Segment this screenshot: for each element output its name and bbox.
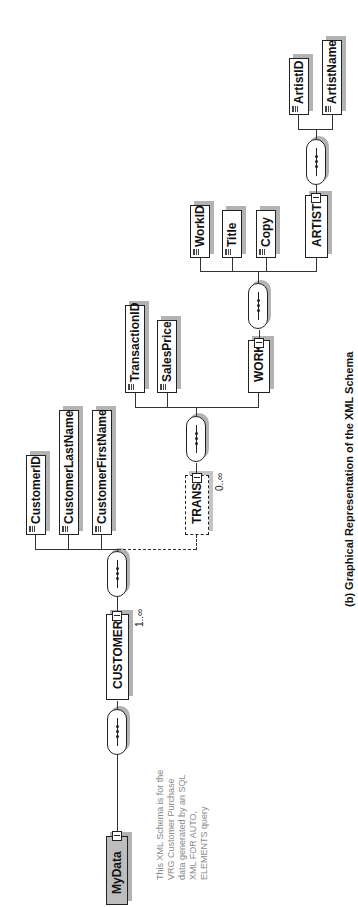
connector-line bbox=[68, 535, 69, 550]
leaf-element-copy[interactable]: Copy bbox=[256, 210, 276, 258]
sequence-compositor-icon[interactable] bbox=[306, 139, 326, 185]
simple-content-icon bbox=[29, 526, 36, 532]
leaf-element-customerfirstname[interactable]: CustomerFirstName bbox=[92, 410, 112, 535]
connector-line bbox=[117, 701, 118, 709]
connector-line bbox=[316, 130, 317, 139]
leaf-element-title[interactable]: Title bbox=[222, 210, 242, 258]
connector-line bbox=[258, 272, 259, 283]
simple-content-icon bbox=[225, 249, 232, 255]
root-element-label: MyData bbox=[110, 851, 124, 894]
connector-line bbox=[316, 258, 317, 272]
leaf-element-salesprice[interactable]: SalesPrice bbox=[157, 320, 177, 393]
expand-toggle-icon[interactable] bbox=[311, 193, 321, 203]
schema-annotation: This XML Schema is for the VRG Customer … bbox=[155, 750, 210, 880]
leaf-element-customerid[interactable]: CustomerID bbox=[26, 455, 46, 535]
element-trans-label: TRANS bbox=[190, 483, 204, 524]
connector-bus bbox=[200, 271, 317, 272]
root-element-mydata[interactable]: MyData bbox=[106, 836, 128, 905]
cardinality-label: 0..∞ bbox=[214, 473, 225, 491]
connector-bus bbox=[35, 549, 118, 550]
figure-caption: (b) Graphical Representation of the XML … bbox=[343, 352, 355, 607]
connector-line bbox=[35, 535, 36, 550]
sequence-compositor-icon[interactable] bbox=[107, 551, 127, 597]
connector-line bbox=[196, 408, 197, 416]
connector-line bbox=[258, 393, 259, 408]
simple-content-icon bbox=[325, 106, 332, 112]
sequence-compositor-icon[interactable] bbox=[107, 709, 127, 755]
element-artist[interactable]: ARTIST bbox=[305, 195, 328, 258]
element-artist-label: ARTIST bbox=[310, 204, 324, 247]
leaf-element-artistname[interactable]: ArtistName bbox=[322, 40, 342, 115]
simple-content-icon bbox=[193, 249, 200, 255]
cardinality-label: 1..∞ bbox=[134, 609, 145, 627]
leaf-element-workid[interactable]: WorkID bbox=[190, 205, 210, 258]
connector-bus bbox=[298, 129, 333, 130]
simple-content-icon bbox=[95, 526, 102, 532]
xml-schema-diagram: MyData CUSTOMER 1..∞ CustomerID Customer… bbox=[0, 0, 358, 907]
connector-line bbox=[232, 258, 233, 272]
connector-line-optional bbox=[196, 535, 197, 550]
connector-line bbox=[332, 115, 333, 130]
connector-bus-optional bbox=[118, 549, 196, 550]
expand-toggle-icon[interactable] bbox=[112, 611, 122, 621]
connector-line bbox=[316, 185, 317, 193]
element-customer[interactable]: CUSTOMER bbox=[106, 614, 129, 700]
connector-line bbox=[266, 258, 267, 272]
connector-line bbox=[101, 535, 102, 550]
connector-line bbox=[117, 755, 118, 831]
leaf-element-customerlastname[interactable]: CustomerLastName bbox=[59, 410, 79, 535]
simple-content-icon bbox=[128, 384, 135, 390]
element-work-label: WORK bbox=[252, 344, 266, 382]
leaf-element-transactionid[interactable]: TransactionID bbox=[125, 305, 145, 393]
connector-line bbox=[200, 258, 201, 272]
connector-line bbox=[259, 330, 260, 338]
connector-bus bbox=[135, 407, 259, 408]
connector-line bbox=[298, 115, 299, 130]
simple-content-icon bbox=[160, 384, 167, 390]
sequence-compositor-icon[interactable] bbox=[186, 416, 206, 462]
leaf-element-artistid[interactable]: ArtistID bbox=[289, 58, 309, 115]
element-customer-label: CUSTOMER bbox=[111, 621, 125, 689]
expand-toggle-icon[interactable] bbox=[254, 338, 264, 348]
element-trans[interactable]: TRANS bbox=[185, 475, 209, 535]
sequence-compositor-icon[interactable] bbox=[248, 283, 268, 329]
simple-content-icon bbox=[259, 249, 266, 255]
connector-line bbox=[135, 393, 136, 408]
connector-line bbox=[167, 393, 168, 408]
connector-line bbox=[196, 463, 197, 473]
expand-toggle-icon[interactable] bbox=[192, 473, 202, 483]
simple-content-icon bbox=[62, 526, 69, 532]
simple-content-icon bbox=[292, 106, 299, 112]
expand-toggle-icon[interactable] bbox=[112, 831, 122, 841]
connector-line bbox=[117, 597, 118, 611]
